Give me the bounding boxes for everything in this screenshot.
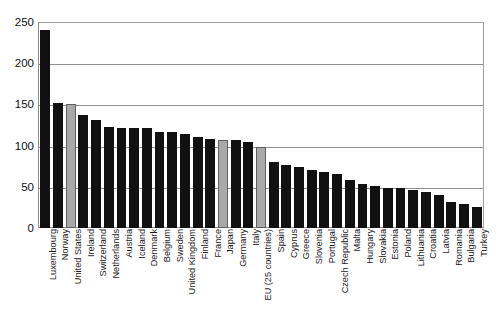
bar-slot [191, 22, 204, 228]
x-tick-label-3: Ireland [87, 229, 96, 257]
x-tick-label-6: Austria [125, 229, 134, 258]
x-tick-label-10: Sweden [176, 229, 185, 262]
bar [256, 147, 266, 228]
bar [155, 132, 165, 228]
x-tick-label-7: Iceland [138, 229, 147, 259]
bar [180, 134, 190, 228]
bar [91, 120, 101, 228]
y-tick-label-2: 100 [0, 140, 34, 152]
bar-slot [204, 22, 217, 228]
x-tick-label-20: Greece [302, 229, 311, 259]
x-tick-label-26: Slovakia [379, 229, 388, 264]
bar [307, 170, 317, 229]
bar [78, 115, 88, 228]
x-tick-label-28: Poland [404, 229, 413, 258]
bar [104, 127, 114, 228]
x-tick-label-2: United States [74, 229, 83, 284]
bar-slot [432, 22, 445, 228]
bar [218, 140, 228, 228]
x-tick-label-11: United Kingdom [188, 229, 197, 294]
x-tick-label-27: Estonia [391, 229, 400, 260]
bar [472, 207, 482, 228]
bar [231, 140, 241, 228]
bar [294, 167, 304, 228]
bar [66, 104, 76, 228]
x-tick-label-18: Spain [277, 229, 286, 253]
x-tick-label-33: Bulgaria [467, 229, 476, 263]
bar [205, 139, 215, 228]
bar-slot [102, 22, 115, 228]
bar-slot [407, 22, 420, 228]
bar-slot [39, 22, 52, 228]
y-tick-label-4: 200 [0, 57, 34, 69]
bar-slot [179, 22, 192, 228]
x-tick-label-4: Switzerland [99, 229, 108, 277]
bar-slot [394, 22, 407, 228]
x-tick-label-24: Malta [353, 229, 362, 251]
x-tick-label-30: Croatia [429, 229, 438, 259]
bar [243, 142, 253, 228]
bar-slot [445, 22, 458, 228]
y-tick-label-3: 150 [0, 98, 34, 110]
x-tick-label-29: Lithuania [417, 229, 426, 266]
bar [396, 188, 406, 228]
bar-slot [77, 22, 90, 228]
bar [358, 184, 368, 228]
bar-slot [229, 22, 242, 228]
x-axis-labels: LuxembourgNorwayUnited StatesIrelandSwit… [39, 229, 483, 329]
bar [281, 165, 291, 228]
bar-slot [255, 22, 268, 228]
bar-slot [382, 22, 395, 228]
bar [129, 128, 139, 228]
bar-chart: 050100150200250 LuxembourgNorwayUnited S… [0, 0, 498, 331]
y-axis: 050100150200250 [0, 0, 34, 331]
bar [167, 132, 177, 228]
bar [40, 30, 50, 228]
bar-slot [115, 22, 128, 228]
x-tick-label-1: Norway [61, 229, 70, 260]
bar-slot [305, 22, 318, 228]
bar [345, 180, 355, 228]
bar-slot [318, 22, 331, 228]
x-tick-label-19: Cyprus [290, 229, 299, 258]
bar [408, 190, 418, 228]
x-tick-label-31: Latvia [442, 229, 451, 254]
bar [370, 186, 380, 228]
x-tick-label-25: Hungary [366, 229, 375, 264]
bar [117, 128, 127, 228]
bar-slot [166, 22, 179, 228]
x-tick-label-12: Finland [201, 229, 210, 259]
bar [319, 172, 329, 228]
bar-slot [242, 22, 255, 228]
x-tick-label-23: Czech Republic [341, 229, 350, 293]
bar-slot [343, 22, 356, 228]
bar-slot [331, 22, 344, 228]
x-tick-label-13: France [214, 229, 223, 258]
x-tick-label-22: Portugal [328, 229, 337, 263]
bar-slot [153, 22, 166, 228]
x-tick-label-8: Denmark [150, 229, 159, 266]
x-tick-label-5: Netherlands [112, 229, 121, 279]
y-tick-label-0: 0 [0, 222, 34, 234]
bar [459, 204, 469, 228]
x-tick-label-0: Luxembourg [49, 229, 58, 280]
bar [383, 188, 393, 228]
bar [446, 202, 456, 228]
x-tick-label-15: Germany [239, 229, 248, 267]
bar-slot [140, 22, 153, 228]
bar [421, 192, 431, 228]
x-tick-label-17: EU (25 countries) [264, 229, 273, 301]
x-tick-label-32: Romania [455, 229, 464, 266]
y-tick-label-1: 50 [0, 181, 34, 193]
x-tick-label-34: Turkey [480, 229, 489, 257]
bar-slot [293, 22, 306, 228]
y-tick-label-5: 250 [0, 16, 34, 28]
bar-slot [217, 22, 230, 228]
bar [142, 128, 152, 228]
x-tick-label-14: Japan [226, 229, 235, 254]
bar [193, 137, 203, 228]
bar-slot [52, 22, 65, 228]
bar-slot [369, 22, 382, 228]
bar-slot [420, 22, 433, 228]
x-tick-label-16: Italy [252, 229, 261, 246]
